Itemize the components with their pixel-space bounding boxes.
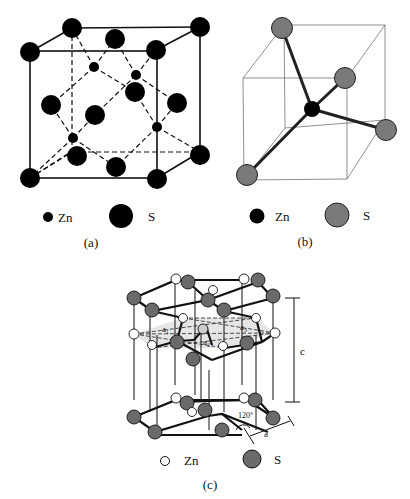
label-a3: a₃	[240, 322, 247, 332]
panel-c-legend: Zn S	[161, 450, 282, 468]
crystal-structure-figure: Zn S (a)	[0, 0, 410, 499]
label-a: a	[264, 429, 268, 439]
legend-zn-label: Zn	[275, 209, 290, 224]
legend-zn-icon	[161, 457, 170, 466]
panel-b-legend: Zn S	[250, 203, 371, 227]
panel-a-zinc-blende: Zn S (a)	[20, 17, 210, 250]
panel-a-legend: Zn S	[43, 204, 155, 228]
legend-s-label: S	[363, 208, 370, 223]
panel-b-bonds	[247, 28, 386, 175]
panel-c-wurtzite: c a 120° a₁ a₂ a₃	[127, 273, 305, 492]
panel-a-caption: (a)	[84, 235, 98, 250]
legend-zn-label: Zn	[184, 453, 199, 468]
legend-zn-label: Zn	[58, 210, 73, 225]
label-a1: a₁	[162, 324, 169, 334]
legend-s-label: S	[274, 452, 281, 467]
panel-a-zn-atoms	[68, 62, 162, 143]
legend-s-icon	[109, 204, 133, 228]
panel-c-dimension-c: c	[285, 298, 305, 402]
legend-s-label: S	[148, 209, 155, 224]
label-a2: a₂	[203, 337, 210, 347]
legend-s-icon	[325, 203, 349, 227]
legend-s-icon	[243, 450, 261, 468]
panel-c-caption: (c)	[203, 477, 217, 492]
panel-c-dimension-a: a 120°	[236, 411, 294, 444]
label-120-deg: 120°	[238, 411, 253, 420]
panel-b-caption: (b)	[297, 234, 312, 249]
panel-b-tetrahedron: Zn S (b)	[237, 18, 397, 250]
legend-zn-icon	[250, 209, 265, 224]
label-c: c	[300, 345, 305, 357]
legend-zn-icon	[43, 212, 53, 222]
